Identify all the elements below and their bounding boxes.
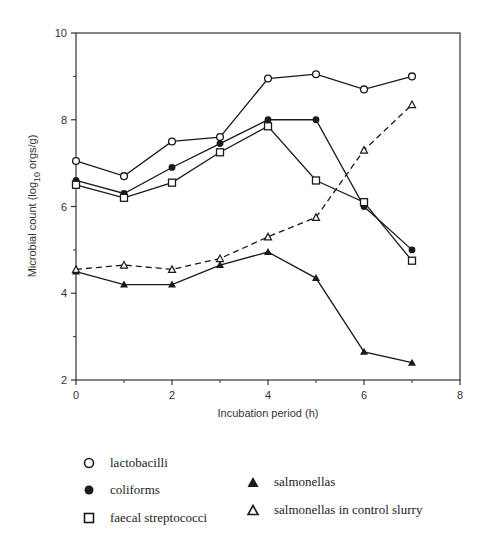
- filled-triangle-icon: [246, 475, 260, 489]
- open-circle-marker: [169, 138, 176, 145]
- open-square-marker: [169, 179, 176, 186]
- open-circle-marker: [217, 134, 224, 141]
- filled-circle-marker: [313, 116, 320, 123]
- x-tick-label: 8: [457, 389, 463, 401]
- y-axis-title: Microbial count (log10 orgs/g): [26, 135, 42, 278]
- legend-label: salmonellas in control slurry: [274, 502, 422, 518]
- open-triangle-marker: [409, 101, 416, 108]
- open-circle-marker: [73, 158, 80, 165]
- x-tick-label: 6: [361, 389, 367, 401]
- open-circle-marker: [265, 75, 272, 82]
- filled-triangle-marker: [264, 248, 272, 255]
- plot-frame: [76, 33, 460, 380]
- y-axis-title-tail: orgs/g): [26, 135, 38, 172]
- legend-item-salmonellas: salmonellas: [246, 474, 335, 490]
- open-circle-icon: [82, 456, 96, 470]
- open-triangle-marker: [217, 255, 224, 261]
- open-circle-marker: [313, 71, 320, 78]
- legend-label: faecal streptococci: [110, 510, 207, 526]
- series-salmonellas-in-control-slurry: [73, 101, 416, 272]
- y-axis-title-main: Microbial count (log: [26, 182, 38, 277]
- filled-circle-marker: [217, 140, 224, 147]
- plot-area-border: [76, 33, 460, 380]
- line-chart: 246810 02468 Incubation period (h) Micro…: [0, 0, 486, 440]
- legend-label: lactobacilli: [110, 455, 168, 471]
- open-triangle-marker: [265, 233, 272, 240]
- y-tick-label: 2: [61, 374, 67, 386]
- open-triangle-icon: [246, 503, 260, 517]
- filled-triangle-marker: [312, 274, 320, 281]
- open-square-marker: [409, 257, 416, 264]
- open-circle-marker: [361, 86, 368, 93]
- series-coliforms: [73, 116, 416, 253]
- y-axis-title-subscript: 10: [32, 172, 42, 182]
- open-square-marker: [313, 177, 320, 184]
- open-square-marker: [217, 149, 224, 156]
- y-tick-label: 4: [61, 287, 67, 299]
- y-tick-label: 8: [61, 114, 67, 126]
- x-tick-label: 0: [73, 389, 79, 401]
- legend-label: salmonellas: [274, 474, 335, 490]
- open-square-marker: [361, 199, 368, 206]
- legend-item-salmonellas-control: salmonellas in control slurry: [246, 502, 422, 518]
- series-layer: [72, 71, 416, 366]
- filled-triangle-marker: [360, 348, 368, 355]
- y-tick-label: 6: [61, 201, 67, 213]
- legend-item-lactobacilli: lactobacilli: [82, 455, 168, 471]
- x-tick-label: 4: [265, 389, 271, 401]
- open-triangle-marker: [361, 147, 368, 154]
- open-square-icon: [82, 511, 96, 525]
- y-axis: 246810: [55, 27, 76, 386]
- open-square-marker: [265, 123, 272, 130]
- x-axis-title: Incubation period (h): [218, 407, 319, 419]
- legend-label: coliforms: [110, 482, 160, 498]
- x-tick-label: 2: [169, 389, 175, 401]
- open-square-marker: [121, 194, 128, 201]
- y-tick-label: 10: [55, 27, 67, 39]
- open-circle-marker: [121, 173, 128, 180]
- open-square-marker: [73, 181, 80, 188]
- legend-item-coliforms: coliforms: [82, 482, 160, 498]
- filled-circle-icon: [82, 483, 96, 497]
- series-line: [76, 105, 412, 270]
- filled-circle-marker: [409, 246, 416, 253]
- series-lactobacilli: [73, 71, 416, 180]
- filled-circle-marker: [169, 164, 176, 171]
- x-axis: 02468: [73, 380, 463, 401]
- legend-item-faecal-streptococci: faecal streptococci: [82, 510, 207, 526]
- open-circle-marker: [409, 73, 416, 80]
